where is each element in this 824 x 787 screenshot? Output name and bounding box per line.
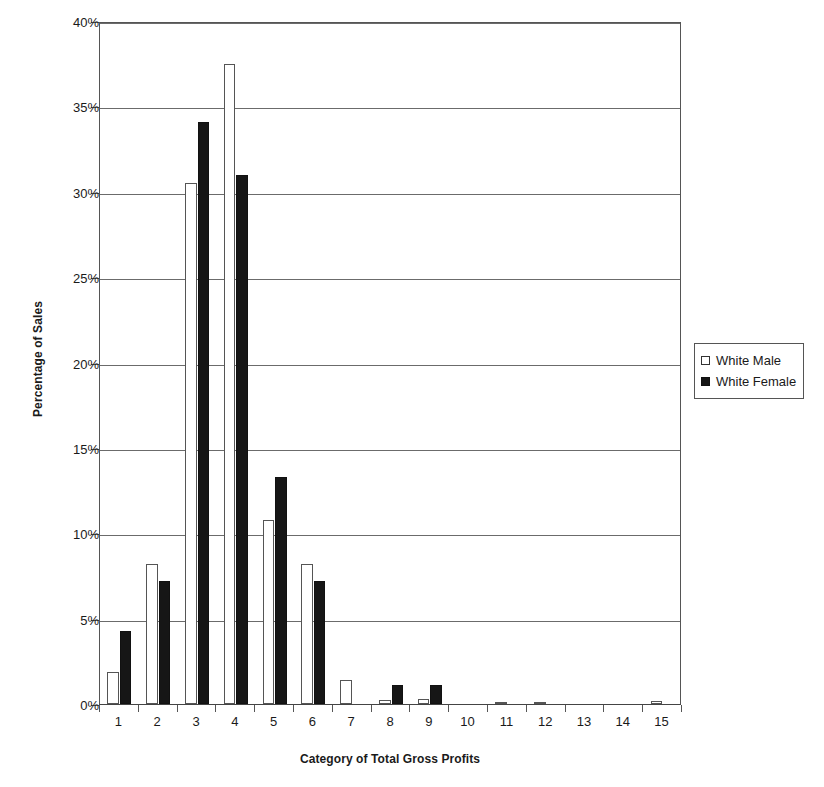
y-tick-label: 15% <box>15 441 99 456</box>
y-tick-label: 0% <box>15 698 99 713</box>
gridline <box>100 23 680 24</box>
x-tick-label: 9 <box>409 714 449 729</box>
x-tick-label: 1 <box>98 714 138 729</box>
x-tick-label: 12 <box>525 714 565 729</box>
x-tick-label: 8 <box>370 714 410 729</box>
y-tick-label: 30% <box>15 185 99 200</box>
bar-male-cat-12 <box>534 702 546 704</box>
legend: White Male White Female <box>694 343 804 399</box>
bar-male-cat-15 <box>651 701 663 704</box>
x-tick-mark <box>371 705 372 712</box>
bar-male-cat-1 <box>107 672 119 704</box>
bar-female-cat-8 <box>392 685 404 704</box>
bar-male-cat-3 <box>185 183 197 704</box>
y-tick-label: 10% <box>15 527 99 542</box>
hollow-square-swatch-icon <box>701 356 710 365</box>
x-tick-mark <box>99 705 100 712</box>
bar-male-cat-7 <box>340 680 352 704</box>
bar-male-cat-8 <box>379 700 391 704</box>
x-tick-mark <box>642 705 643 712</box>
x-tick-mark <box>138 705 139 712</box>
bar-female-cat-1 <box>120 631 132 704</box>
x-tick-mark <box>526 705 527 712</box>
y-tick-label: 35% <box>15 100 99 115</box>
y-axis-ticks: 0%5%10%15%20%25%30%35%40% <box>0 0 99 787</box>
x-tick-mark <box>487 705 488 712</box>
bar-female-cat-5 <box>275 477 287 704</box>
x-tick-mark <box>254 705 255 712</box>
plot-area <box>99 22 681 705</box>
x-tick-label: 15 <box>642 714 682 729</box>
bar-male-cat-5 <box>263 520 275 704</box>
x-tick-label: 6 <box>292 714 332 729</box>
bar-female-cat-2 <box>159 581 171 704</box>
bar-male-cat-6 <box>301 564 313 704</box>
y-tick-label: 25% <box>15 271 99 286</box>
x-tick-label: 2 <box>137 714 177 729</box>
bar-female-cat-9 <box>430 685 442 704</box>
x-tick-mark <box>332 705 333 712</box>
legend-item-male: White Male <box>701 350 796 371</box>
x-tick-label: 14 <box>603 714 643 729</box>
x-tick-label: 13 <box>564 714 604 729</box>
gridline <box>100 108 680 109</box>
y-tick-label: 40% <box>15 15 99 30</box>
x-tick-mark <box>681 705 682 712</box>
legend-label-male: White Male <box>716 354 781 367</box>
x-tick-mark <box>603 705 604 712</box>
x-tick-mark <box>448 705 449 712</box>
filled-square-swatch-icon <box>701 377 710 386</box>
x-tick-mark <box>177 705 178 712</box>
bar-chart: Percentage of Sales 0%5%10%15%20%25%30%3… <box>0 0 824 787</box>
x-tick-mark <box>409 705 410 712</box>
x-tick-label: 5 <box>254 714 294 729</box>
bar-female-cat-3 <box>198 122 210 704</box>
bar-male-cat-4 <box>224 64 236 704</box>
x-tick-label: 4 <box>215 714 255 729</box>
legend-item-female: White Female <box>701 371 796 392</box>
bar-female-cat-4 <box>236 175 248 704</box>
x-tick-mark <box>293 705 294 712</box>
bar-female-cat-6 <box>314 581 326 704</box>
x-tick-label: 7 <box>331 714 371 729</box>
x-tick-label: 11 <box>486 714 526 729</box>
x-tick-mark <box>565 705 566 712</box>
legend-label-female: White Female <box>716 375 796 388</box>
bar-male-cat-9 <box>418 699 430 704</box>
x-axis-title: Category of Total Gross Profits <box>99 752 681 766</box>
x-tick-mark <box>215 705 216 712</box>
x-tick-label: 3 <box>176 714 216 729</box>
y-tick-label: 5% <box>15 612 99 627</box>
bar-male-cat-11 <box>495 702 507 704</box>
x-tick-label: 10 <box>448 714 488 729</box>
bar-male-cat-2 <box>146 564 158 704</box>
y-tick-label: 20% <box>15 356 99 371</box>
